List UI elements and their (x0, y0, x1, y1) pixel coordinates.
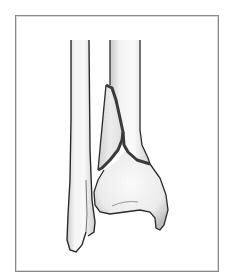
fibula (67, 40, 95, 252)
bone-fracture-illustration (0, 0, 230, 280)
